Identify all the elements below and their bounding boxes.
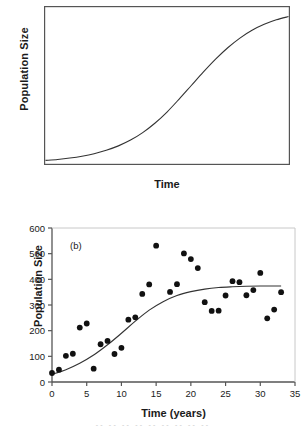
scatter-point xyxy=(216,308,222,314)
scatter-point xyxy=(174,281,180,287)
scatter-point xyxy=(63,353,69,359)
scatter-point xyxy=(230,278,236,284)
y-tick-label: 100 xyxy=(29,351,45,362)
x-tick-label: 30 xyxy=(255,388,266,399)
panel-b-x-axis-label: Time (years) xyxy=(52,407,295,419)
scatter-point xyxy=(264,315,270,321)
x-tick-label: 20 xyxy=(186,388,197,399)
scatter-point xyxy=(77,325,83,331)
x-tick-label: 0 xyxy=(49,388,54,399)
y-tick-label: 0 xyxy=(40,377,45,388)
panel-b-y-ticks: 0100200300400500600 xyxy=(29,223,52,388)
panel-a-y-axis-label: Population Size xyxy=(18,9,30,129)
panel-b: Population Size (b) 0100200300400500600 … xyxy=(0,205,306,429)
figure-population-growth: Population Size (a) Time Population Size… xyxy=(0,0,306,429)
scatter-point xyxy=(56,367,62,373)
y-tick-label: 400 xyxy=(29,274,45,285)
scatter-point xyxy=(278,289,284,295)
scatter-point xyxy=(125,317,131,323)
x-tick-label: 5 xyxy=(84,388,89,399)
scatter-point xyxy=(49,370,55,376)
y-tick-label: 200 xyxy=(29,325,45,336)
x-tick-label: 10 xyxy=(116,388,127,399)
scatter-point xyxy=(91,366,97,372)
scatter-point xyxy=(202,299,208,305)
scatter-point xyxy=(188,256,194,262)
scatter-point xyxy=(84,321,90,327)
scatter-point xyxy=(70,351,76,357)
scatter-point xyxy=(98,341,104,347)
panel-a-plot-area xyxy=(44,6,290,165)
scatter-point xyxy=(153,243,159,249)
scatter-point xyxy=(119,345,125,351)
scatter-point xyxy=(223,293,229,299)
y-tick-label: 500 xyxy=(29,248,45,259)
scatter-point xyxy=(195,265,201,271)
panel-a: Population Size (a) Time xyxy=(0,0,306,205)
scatter-point xyxy=(105,338,111,344)
scatter-point xyxy=(181,251,187,257)
panel-b-x-ticks: 05101520253035 xyxy=(49,382,300,399)
scatter-point xyxy=(146,282,152,288)
scatter-point xyxy=(244,292,250,298)
panel-b-plot-area: 0100200300400500600 05101520253035 xyxy=(0,205,306,429)
scatter-point xyxy=(139,291,145,297)
x-tick-label: 15 xyxy=(151,388,162,399)
scatter-point xyxy=(237,279,243,285)
y-tick-label: 300 xyxy=(29,300,45,311)
scatter-point xyxy=(250,287,256,293)
panel-a-x-axis-label: Time xyxy=(44,178,290,190)
y-tick-label: 600 xyxy=(29,223,45,234)
page-bottom-artifact: -- -- -- -- -- -- -- -- -- xyxy=(0,421,306,429)
scatter-point xyxy=(257,270,263,276)
scatter-point xyxy=(167,289,173,295)
scatter-point xyxy=(132,314,138,320)
x-tick-label: 35 xyxy=(290,388,301,399)
scatter-point xyxy=(112,351,118,357)
x-tick-label: 25 xyxy=(220,388,231,399)
scatter-point xyxy=(271,307,277,313)
panel-b-data-points xyxy=(49,243,284,376)
scatter-point xyxy=(209,308,215,314)
panel-b-fitted-curve xyxy=(52,286,281,374)
